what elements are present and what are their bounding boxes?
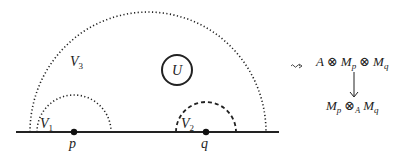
region-v3-label: V3 <box>70 54 84 71</box>
diagram-canvas: p q V3 V1 V2 U A⊗Mp⊗Mq Mp⊗AMq <box>0 0 403 153</box>
point-p-label: p <box>68 136 76 151</box>
squiggle-arrowhead-icon <box>299 64 302 68</box>
point-q-dot <box>203 129 209 135</box>
region-v1-label: V1 <box>40 116 53 133</box>
region-u-label: U <box>172 63 183 78</box>
point-q-label: q <box>201 136 208 151</box>
squiggle-arrow-icon <box>291 65 300 68</box>
region-v3-arc <box>30 12 266 132</box>
point-p-dot <box>71 129 77 135</box>
formula-bottom: Mp⊗AMq <box>325 98 379 115</box>
formula-top: A⊗Mp⊗Mq <box>315 54 389 71</box>
region-v2-label: V2 <box>181 116 194 133</box>
